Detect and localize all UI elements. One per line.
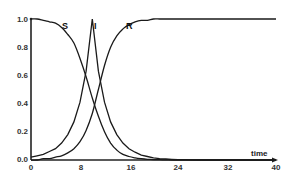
- curve-label-s: S: [62, 21, 68, 31]
- series-s-line: [31, 19, 276, 160]
- series-i-line: [31, 19, 276, 160]
- x-tick-label: 8: [79, 163, 84, 172]
- series-r-line: [31, 19, 276, 160]
- y-tick-label: 0.8: [17, 43, 29, 52]
- curve-label-i: I: [94, 21, 97, 31]
- y-tick-label: 0.6: [17, 71, 29, 80]
- sir-chart: 1.0 0.8 0.6 0.4 0.2 0.0 0 8 16 24 32 40 …: [0, 0, 295, 178]
- curves: [31, 19, 276, 160]
- y-tick-label: 0.4: [17, 99, 29, 108]
- x-tick-label: 0: [29, 163, 34, 172]
- x-tick-label: 40: [272, 163, 281, 172]
- x-tick-label: 32: [224, 163, 233, 172]
- y-tick-label: 0.2: [17, 127, 29, 136]
- y-tick-label: 1.0: [17, 15, 29, 24]
- x-axis-label: time: [251, 149, 268, 158]
- y-tick-label: 0.0: [17, 155, 29, 164]
- x-tick-label: 24: [174, 163, 183, 172]
- x-tick-label: 16: [127, 163, 136, 172]
- curve-label-r: R: [126, 21, 133, 31]
